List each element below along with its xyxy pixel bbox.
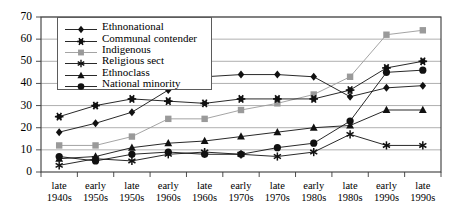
circle-marker-icon [63,78,101,89]
y-axis-tick-label: 40 [6,77,32,89]
legend-label: National minority [102,78,181,89]
asterisk-marker-icon [63,55,101,66]
x-tick-decade: 1990s [400,192,446,204]
legend-item-national-minority[interactable]: National minority [58,78,211,89]
y-axis-tick-label: 70 [6,11,32,23]
star6-marker-icon [63,33,101,44]
legend-label: Communal contender [102,33,197,44]
line-chart: 010203040506070 late1940searly1950slate1… [0,0,455,218]
legend-label: Ethnonational [102,21,164,32]
legend-label: Indigenous [102,44,151,55]
y-axis-tick-label: 10 [6,144,32,156]
legend-item-ethnonational[interactable]: Ethnonational [58,21,211,32]
y-axis-tick-label: 30 [6,100,32,112]
legend-label: Religious sect [102,55,164,66]
y-axis-tick-label: 50 [6,55,32,67]
y-axis-tick-label: 60 [6,33,32,45]
y-axis-tick-label: 20 [6,122,32,134]
diamond-marker-icon [63,21,101,32]
triangle-marker-icon [63,67,101,78]
chart-legend: EthnonationalCommunal contenderIndigenou… [57,17,212,90]
legend-item-religious-sect[interactable]: Religious sect [58,55,211,66]
legend-label: Ethnoclass [102,67,150,78]
x-tick-period: late [400,180,446,192]
x-axis-tick-label: late1990s [400,180,446,204]
y-axis-tick-label: 0 [6,166,32,178]
square-marker-icon [63,44,101,55]
